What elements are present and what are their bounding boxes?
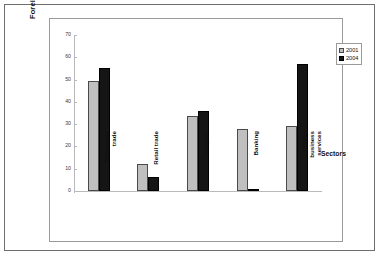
- y-axis-tick-label: 10: [50, 164, 74, 173]
- y-axis-tick-label: 20: [50, 141, 74, 150]
- bar-2001[interactable]: [88, 81, 99, 191]
- x-axis-category-label: Retail trade: [152, 131, 159, 195]
- legend-swatch-icon: [339, 48, 344, 53]
- bar-2001[interactable]: [187, 116, 198, 191]
- y-axis-tick-mark: [74, 169, 77, 170]
- x-axis-category-label: Other business services: [301, 131, 322, 195]
- x-axis-category-label: Banking: [252, 131, 259, 195]
- y-axis-tick-label: 50: [50, 75, 74, 84]
- legend-label: 2004: [346, 54, 358, 62]
- figure-border: Foreign share 010203040506070 Wholesale …: [4, 4, 375, 251]
- legend-item[interactable]: 2004: [339, 54, 358, 62]
- legend-item[interactable]: 2001: [339, 46, 358, 54]
- bar-2001[interactable]: [137, 164, 148, 191]
- y-axis-tick-mark: [74, 102, 77, 103]
- y-axis-tick-mark: [74, 80, 77, 81]
- legend-label: 2001: [346, 46, 358, 54]
- x-axis-title: Sectors: [321, 150, 346, 157]
- y-axis-tick-mark: [74, 124, 77, 125]
- y-axis-tick-label: 60: [50, 52, 74, 61]
- y-axis-tick-mark: [74, 146, 77, 147]
- legend-swatch-icon: [339, 56, 344, 61]
- x-axis-category-label: Transport: [202, 131, 209, 195]
- y-axis-tick-label: 40: [50, 97, 74, 106]
- y-axis-title: Foreign share: [28, 0, 37, 27]
- chart-legend: 20012004: [336, 43, 362, 65]
- x-axis-category-label: Wholesale trade: [103, 131, 117, 195]
- y-axis-tick-label: 70: [50, 30, 74, 39]
- y-axis-tick-mark: [74, 35, 77, 36]
- y-axis-tick-mark: [74, 57, 77, 58]
- plot-frame: Foreign share 010203040506070 Wholesale …: [49, 18, 343, 242]
- y-axis-tick-label: 0: [50, 186, 74, 195]
- bar-2001[interactable]: [237, 129, 248, 191]
- y-axis-tick-label: 30: [50, 119, 74, 128]
- y-axis-tick-mark: [74, 191, 77, 192]
- chart-page: Foreign share 010203040506070 Wholesale …: [0, 0, 380, 256]
- bar-2001[interactable]: [286, 126, 297, 191]
